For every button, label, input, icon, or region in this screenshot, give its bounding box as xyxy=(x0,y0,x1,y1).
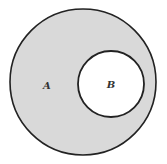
venn-svg: A B xyxy=(0,0,167,164)
set-b-label: B xyxy=(106,79,115,90)
venn-diagram: A B xyxy=(0,0,167,164)
set-a-label: A xyxy=(42,80,51,91)
